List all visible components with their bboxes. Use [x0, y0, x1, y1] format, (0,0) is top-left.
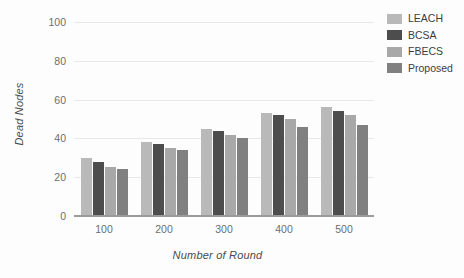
- bar-group: [254, 22, 314, 216]
- bar: [117, 169, 128, 216]
- legend-label: BCSA: [408, 30, 437, 41]
- bar: [237, 138, 248, 216]
- bar: [321, 107, 332, 216]
- y-axis-tick-label: 80: [26, 55, 66, 67]
- plot-area: [74, 22, 374, 216]
- bar: [153, 144, 164, 216]
- x-axis-tick-label: 300: [194, 223, 254, 235]
- bar-group: [74, 22, 134, 216]
- bar: [93, 162, 104, 216]
- bar: [177, 150, 188, 216]
- y-axis-tick-label: 40: [26, 132, 66, 144]
- bar: [285, 119, 296, 216]
- legend-item[interactable]: LEACH: [387, 13, 453, 24]
- x-axis-tick-label: 100: [74, 223, 134, 235]
- bar: [201, 129, 212, 216]
- y-axis-tick-label: 100: [26, 16, 66, 28]
- legend-swatch: [387, 47, 402, 57]
- legend-swatch: [387, 30, 402, 40]
- y-axis-tick-label: 20: [26, 171, 66, 183]
- bar-group: [194, 22, 254, 216]
- bar: [81, 158, 92, 216]
- bar: [297, 127, 308, 216]
- x-axis-line: [74, 215, 374, 217]
- bar-chart: Dead Nodes 020406080100 100200300400500 …: [0, 0, 464, 278]
- bar: [345, 115, 356, 216]
- legend-label: Proposed: [408, 63, 453, 74]
- legend-label: FBECS: [408, 46, 443, 57]
- y-axis-tick-label: 60: [26, 94, 66, 106]
- bar-group: [314, 22, 374, 216]
- bar: [357, 125, 368, 216]
- x-axis-tick-label: 200: [134, 223, 194, 235]
- y-axis-title: Dead Nodes: [13, 69, 25, 159]
- bar: [165, 148, 176, 216]
- legend: LEACHBCSAFBECSProposed: [387, 13, 453, 74]
- bar: [261, 113, 272, 216]
- y-axis-tick-label: 0: [26, 210, 66, 222]
- bar: [333, 111, 344, 216]
- x-axis-title: Number of Round: [60, 249, 375, 261]
- bar: [141, 142, 152, 216]
- x-axis-tick-label: 400: [254, 223, 314, 235]
- legend-item[interactable]: Proposed: [387, 63, 453, 74]
- legend-item[interactable]: FBECS: [387, 46, 453, 57]
- x-axis-tick-label: 500: [314, 223, 374, 235]
- legend-item[interactable]: BCSA: [387, 30, 453, 41]
- bar: [105, 167, 116, 216]
- bar: [273, 115, 284, 216]
- bar: [213, 131, 224, 216]
- bar-group: [134, 22, 194, 216]
- legend-label: LEACH: [408, 13, 443, 24]
- legend-swatch: [387, 63, 402, 73]
- legend-swatch: [387, 14, 402, 24]
- bar: [225, 135, 236, 216]
